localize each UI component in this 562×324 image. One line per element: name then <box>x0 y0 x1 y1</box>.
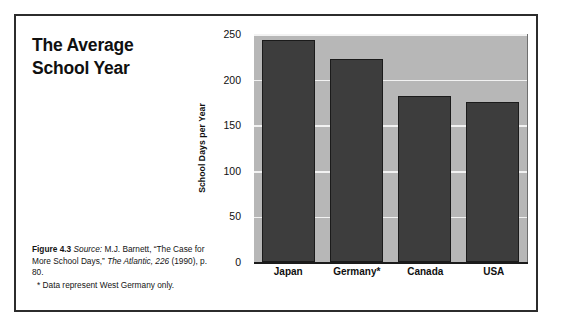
plot-area <box>254 34 528 262</box>
bars-layer <box>254 35 527 262</box>
caption-source-italic: The Atlantic, 226 <box>107 256 169 266</box>
x-tick-label: Canada <box>391 266 460 277</box>
x-tick-label: USA <box>460 266 529 277</box>
bar-slot <box>391 35 459 262</box>
caption-source-label: Source: <box>74 244 103 254</box>
y-tick-label: 0 <box>235 256 241 268</box>
caption-source-line: Figure 4.3 Source: M.J. Barnett, “The Ca… <box>32 244 220 279</box>
x-tick-label: Japan <box>254 266 323 277</box>
title-block: The Average School Year <box>32 34 208 80</box>
page-title: The Average School Year <box>32 34 208 80</box>
y-axis-title: School Days per Year <box>194 34 210 262</box>
bar-slot <box>459 35 527 262</box>
bar-slot <box>254 35 322 262</box>
figure-frame: The Average School Year Figure 4.3 Sourc… <box>14 14 538 312</box>
y-tick-label: 200 <box>223 74 241 86</box>
y-tick-label: 150 <box>223 119 241 131</box>
x-axis-line <box>254 262 528 264</box>
bar-germany <box>330 59 383 262</box>
x-tick-label: Germany* <box>323 266 392 277</box>
chart-plot-region: School Days per Year 050100150200250 Jap… <box>198 34 528 296</box>
y-axis-title-text: School Days per Year <box>197 103 207 193</box>
bar-canada <box>398 96 451 262</box>
y-axis-tick-labels: 050100150200250 <box>212 34 244 262</box>
y-tick-label: 250 <box>223 28 241 40</box>
y-tick-label: 100 <box>223 165 241 177</box>
caption-footnote: * Data represent West Germany only. <box>37 280 220 292</box>
caption-figure-label: Figure 4.3 <box>32 244 71 254</box>
bar-slot <box>322 35 390 262</box>
x-axis-tick-labels: JapanGermany*CanadaUSA <box>254 266 528 277</box>
figure-caption: Figure 4.3 Source: M.J. Barnett, “The Ca… <box>32 244 220 292</box>
y-tick-label: 50 <box>229 210 241 222</box>
bar-usa <box>466 102 519 263</box>
bar-japan <box>262 40 315 262</box>
